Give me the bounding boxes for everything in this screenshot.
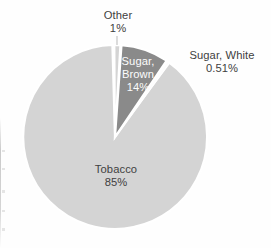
pie-chart-canvas (0, 0, 271, 248)
pie-chart: Other 1% Sugar, White 0.51% Sugar, Brown… (0, 0, 271, 248)
scan-artifact-speck (2, 168, 5, 170)
pie-label-other: Other 1% (83, 9, 153, 35)
pie-label-tobacco-percent: 85% (79, 176, 153, 189)
pie-label-other-name: Other (83, 9, 153, 22)
pie-label-tobacco-name: Tobacco (79, 163, 153, 176)
pie-label-sugar-brown: Sugar, Brown 14% (112, 55, 164, 95)
pie-label-sugar-brown-name-line1: Sugar, (112, 55, 164, 68)
scan-artifact-speck (2, 228, 5, 231)
pie-label-sugar-brown-name-line2: Brown (112, 68, 164, 81)
pie-label-tobacco: Tobacco 85% (79, 163, 153, 189)
scan-artifact-speck (2, 210, 5, 212)
scan-artifact-edge (0, 118, 1, 248)
pie-label-sugar-white: Sugar, White 0.51% (175, 49, 269, 75)
pie-label-sugar-white-percent: 0.51% (175, 62, 269, 75)
pie-label-other-percent: 1% (83, 22, 153, 35)
scan-artifact-speck (2, 150, 5, 152)
pie-label-sugar-white-name: Sugar, White (175, 49, 269, 62)
scan-artifact-speck (2, 190, 5, 193)
pie-label-sugar-brown-percent: 14% (112, 81, 164, 94)
